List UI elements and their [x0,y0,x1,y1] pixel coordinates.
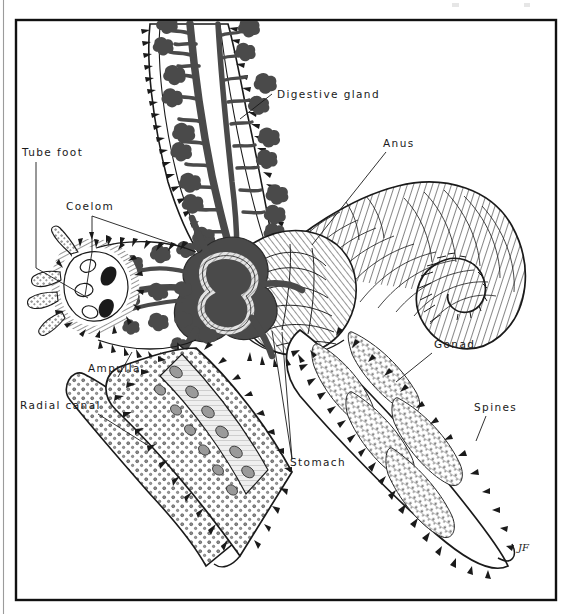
artist-signature: JF [516,542,530,553]
label-spines: Spines [474,401,517,413]
label-radial-canal: Radial canal [20,399,101,411]
label-anus: Anus [383,137,415,149]
starfish-anatomy-figure: Digestive gland Anus Tube foot Coelom Go… [0,0,572,614]
label-coelom: Coelom [66,200,114,212]
label-stomach: Stomach [290,456,346,468]
label-gonad: Gonad [434,338,475,350]
label-ampulla: Ampulla [88,362,141,374]
label-tube-foot: Tube foot [21,146,83,158]
label-digestive-gland: Digestive gland [277,88,380,100]
